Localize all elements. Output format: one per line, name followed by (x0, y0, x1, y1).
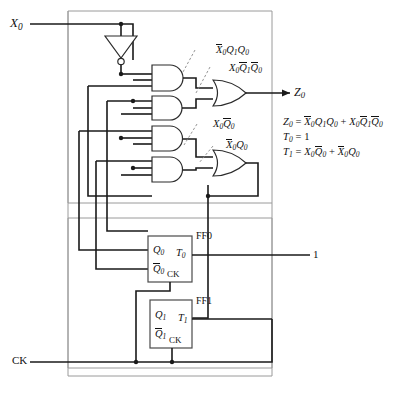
and-gate-3 (152, 126, 183, 151)
and-gate-4 (152, 157, 183, 182)
wire-bus-a (88, 86, 152, 196)
and-gate-1 (152, 65, 183, 91)
junction-x0bar-lower (119, 136, 123, 140)
or-gate-z0 (213, 80, 246, 106)
ff0-qbar-input-label: Q0 (153, 264, 164, 276)
ff0-q-input-label: Q0 (153, 245, 164, 257)
and-gate-3-label: X0Q0 (213, 119, 235, 131)
leader-lines (183, 50, 213, 163)
ff1-t-output-label: T1 (178, 313, 188, 325)
and-to-or-wires (182, 78, 213, 170)
wire-ff1-feedback-bottom (185, 319, 272, 362)
arrowhead-z0 (282, 90, 290, 97)
leader-and1 (183, 50, 195, 72)
ff0-t-output-label: T0 (176, 248, 186, 260)
circuit-schematic-canvas (0, 0, 396, 394)
output-z0-label: Z0 (294, 86, 305, 100)
and-gates (152, 65, 183, 182)
feedback-wires (185, 319, 272, 362)
and-gate-2 (152, 96, 182, 120)
input-ck-label: CK (12, 355, 27, 366)
junction-ck-ff0 (134, 360, 138, 364)
ff1-qbar-input-label: Q1 (155, 329, 166, 341)
flip-flop-0-id: FF0 (196, 231, 212, 241)
wire-bus-d (96, 161, 148, 269)
equation-z0: Z0 = X0Q1Q0 + X0Q1Q0 (283, 117, 383, 129)
wire-and2-to-or1 (182, 99, 213, 108)
routing-bus (79, 74, 152, 269)
junction-x0-bus-mid (131, 99, 135, 103)
equation-t0: T0 = 1 (283, 132, 310, 144)
leader-and3 (184, 124, 197, 145)
or-gate-t1 (213, 150, 246, 176)
equation-t1: T1 = X0Q0 + X0Q0 (283, 147, 360, 159)
wire-bus-c (79, 131, 148, 250)
ff1-ck-input-label: CK (169, 336, 182, 345)
and-gate-4-label: X0Q0 (226, 140, 248, 152)
and-gate-2-label: X0Q1Q0 (229, 63, 262, 75)
ff1-q-input-label: Q1 (155, 310, 166, 322)
circuit-diagram-figure: { "figure": { "title": "Sequential circu… (0, 0, 396, 394)
leader-and4 (199, 146, 213, 163)
input-x0-label: X0 (10, 16, 23, 32)
junction-t1-branch (206, 194, 210, 198)
logic-one-label: 1 (313, 249, 319, 260)
leader-and2 (196, 67, 210, 93)
junction-x0-lower (131, 166, 135, 170)
output-wires (192, 93, 290, 318)
flip-flop-1-id: FF1 (196, 296, 212, 306)
junction-x0-inverter (119, 22, 123, 26)
wire-and1-to-or1 (183, 78, 213, 88)
wire-bus-b (107, 101, 148, 231)
wire-and3-to-or2 (183, 139, 213, 157)
ff0-ck-input-label: CK (167, 270, 180, 279)
and-gate-1-label: X0Q1Q0 (216, 45, 249, 57)
inverter-bubble (118, 58, 124, 64)
junction-x0bar-bus (119, 72, 123, 76)
junction-ck-ff1 (170, 360, 174, 364)
wire-and4-to-or2 (183, 168, 213, 170)
